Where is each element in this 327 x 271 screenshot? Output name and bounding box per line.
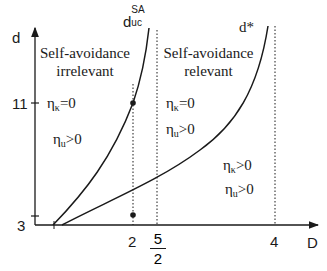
eta-symbol: η [225,181,233,197]
point-D2-d3 [130,212,136,218]
fraction-bar [150,248,166,249]
phase-diagram: d D 11 3 2 5 2 4 dSAuc d* Self-avoidance… [0,0,327,271]
region-left-eta-k: ηκ=0 [47,96,76,113]
y-tick-label-11: 11 [12,96,28,111]
duc-sup: SA [131,5,144,15]
duc-base: d [123,13,131,30]
eta-symbol: η [47,95,55,111]
eta-k-value: =0 [179,95,195,111]
eta-u-value: >0 [66,131,82,147]
region-middle-title: Self-avoidance relevant [161,44,256,80]
duc-sub: uc [131,18,142,28]
region-middle-title-line1: Self-avoidance [161,44,256,62]
region-middle-eta-u: ηu>0 [166,122,195,139]
point-D2-d11 [130,100,136,106]
eta-u-value: >0 [238,181,254,197]
eta-symbol: η [166,95,174,111]
region-left-title: Self-avoidance irrelevant [40,44,130,80]
duc-sa-label: dSAuc [123,12,147,29]
y-axis-label: d [12,30,20,45]
eta-u-value: >0 [179,121,195,137]
region-middle-eta-k: ηκ=0 [166,96,195,113]
x-tick-label-5-2: 5 2 [150,230,166,267]
region-right-eta-k: ηκ>0 [223,158,252,175]
y-tick-label-3: 3 [17,218,25,233]
eta-symbol: η [223,157,231,173]
x-axis-label: D [307,235,318,250]
dstar-label: d* [239,20,254,35]
eta-k-value: >0 [236,157,252,173]
x-tick-label-4: 4 [270,234,278,249]
region-left-eta-u: ηu>0 [53,132,82,149]
region-middle-title-line2: relevant [161,62,256,80]
fraction-denominator: 2 [150,250,166,267]
region-right-eta-u: ηu>0 [225,182,254,199]
eta-symbol: η [166,121,174,137]
eta-k-value: =0 [60,95,76,111]
region-left-title-line1: Self-avoidance [40,44,130,62]
fraction-numerator: 5 [150,230,166,247]
eta-symbol: η [53,131,61,147]
x-tick-label-2: 2 [128,234,136,249]
region-left-title-line2: irrelevant [40,62,130,80]
